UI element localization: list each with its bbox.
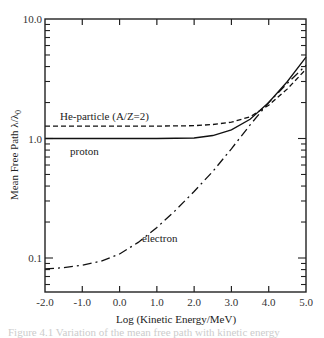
figure-caption: Figure 4.1 Variation of the mean free pa… — [8, 326, 280, 338]
x-axis-title: Log (Kinetic Energy/MeV) — [116, 313, 236, 326]
annotation-proton: proton — [70, 145, 99, 157]
x-tick-label: -1.0 — [74, 296, 92, 308]
y-tick-label: 0.1 — [28, 252, 42, 264]
y-axis-title-sub: 0 — [14, 110, 23, 114]
annotation-electron: electron — [142, 232, 178, 244]
y-tick-label: 1.0 — [28, 133, 42, 145]
y-tick-label: 10.0 — [23, 13, 43, 25]
y-tick-labels: 0.11.010.0 — [23, 13, 43, 264]
x-tick-label: 3.0 — [225, 296, 239, 308]
x-tick-label: -2.0 — [36, 296, 54, 308]
y-axis-title-main: Mean Free Path λ/λ — [8, 113, 20, 200]
x-tick-label: 2.0 — [187, 296, 201, 308]
x-tick-label: 0.0 — [113, 296, 127, 308]
y-axis-title: Mean Free Path λ/λ0 — [8, 110, 23, 200]
x-tick-label: 5.0 — [299, 296, 313, 308]
x-tick-label: 4.0 — [262, 296, 276, 308]
x-tick-labels: -2.0-1.00.01.02.03.04.05.0 — [36, 296, 313, 308]
x-tick-label: 1.0 — [150, 296, 164, 308]
svg-text:Mean Free Path λ/λ0: Mean Free Path λ/λ0 — [8, 110, 23, 200]
annotation-he-particle: He-particle (A/Z=2) — [60, 110, 149, 123]
